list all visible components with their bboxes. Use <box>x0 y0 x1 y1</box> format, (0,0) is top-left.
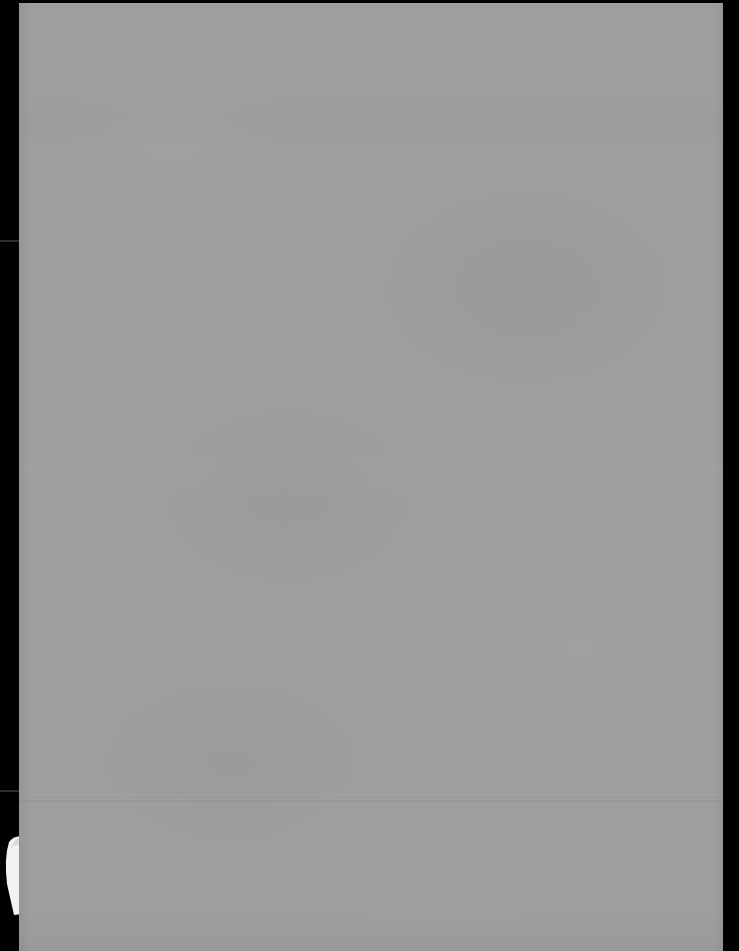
tone-band-upper <box>19 93 723 153</box>
page-content-text: Blank scanned page <box>19 3 20 4</box>
paper-grain-texture <box>19 3 723 951</box>
page-gutter-shading <box>19 3 29 951</box>
page-outer-edge-shading <box>715 3 723 951</box>
page-foot-shading <box>19 909 723 951</box>
page-sheet: Blank scanned page <box>19 3 723 951</box>
scan-banding-texture <box>19 3 723 951</box>
tone-band-mid <box>19 433 723 513</box>
scanned-page-image: Blank scanned page <box>0 0 739 951</box>
horizontal-crease <box>19 799 723 802</box>
